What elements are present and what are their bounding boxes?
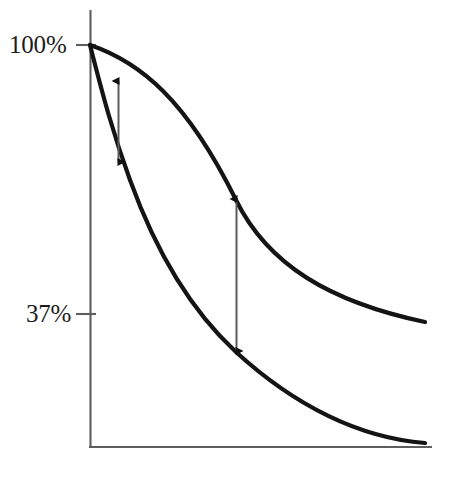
chart-canvas <box>0 0 450 479</box>
y-axis-label-100: 100% <box>9 32 67 57</box>
forgetting-curve-figure: 100% 37% <box>0 0 450 479</box>
lower-forgetting-curve <box>90 45 425 443</box>
tick-group <box>76 45 96 314</box>
y-axis-label-37: 37% <box>26 301 71 326</box>
upper-retention-curve <box>90 45 425 322</box>
axis-group <box>89 10 432 448</box>
